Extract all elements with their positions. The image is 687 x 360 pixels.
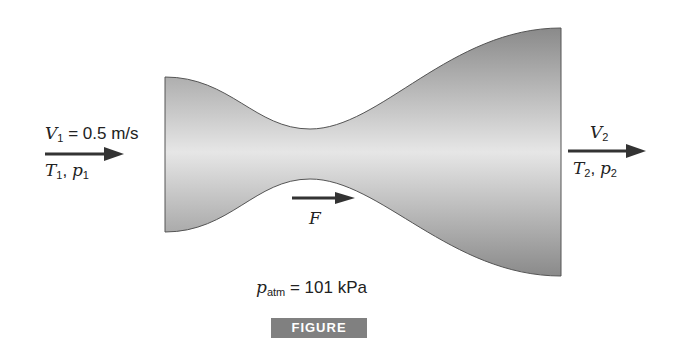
force-label: F	[309, 208, 321, 228]
figure-caption: FIGURE P5.2.9	[271, 318, 367, 338]
outlet-velocity-label: V2	[590, 122, 608, 143]
force-arrow	[292, 192, 355, 204]
nozzle-diagram	[0, 0, 687, 360]
inlet-arrow	[45, 147, 124, 161]
atm-pressure-label: patm = 101 kPa	[256, 277, 367, 298]
nozzle-body	[165, 28, 561, 276]
figure-canvas: V1 = 0.5 m/s T1, p1 V2 T2, p2 F patm = 1…	[0, 0, 687, 360]
outlet-state-label: T2, p2	[573, 158, 617, 179]
outlet-arrow	[568, 144, 646, 158]
inlet-state-label: T1, p1	[45, 160, 89, 181]
inlet-velocity-label: V1 = 0.5 m/s	[45, 123, 139, 144]
